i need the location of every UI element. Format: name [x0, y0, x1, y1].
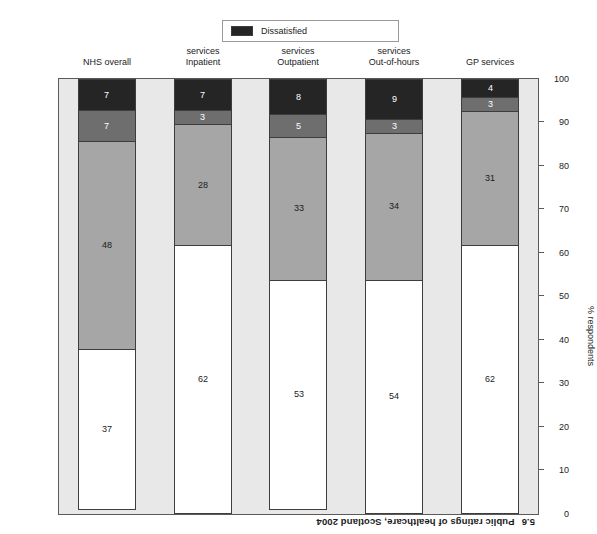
- bar-segment[interactable]: 4: [462, 80, 518, 97]
- y-tick-mark: [539, 470, 544, 471]
- bar-value-label: 48: [102, 241, 112, 250]
- legend-label: Dissatisfied: [261, 26, 307, 36]
- figure-caption: 5.6Public ratings of healthcare, Scotlan…: [235, 517, 535, 528]
- y-axis-title: % respondents: [586, 306, 596, 446]
- bar-value-label: 7: [104, 122, 109, 131]
- y-tick-label: 0: [543, 509, 569, 519]
- bar-group: 374877: [78, 79, 136, 514]
- bar-segment[interactable]: 7: [79, 110, 135, 141]
- bar-group: 533358: [270, 79, 328, 514]
- y-tick-label: 60: [543, 248, 569, 258]
- y-tick-mark: [539, 209, 544, 210]
- bar-value-label: 54: [389, 392, 399, 401]
- x-axis-label: NHS overall: [49, 57, 165, 68]
- y-tick-mark: [539, 252, 544, 253]
- bars-container: 623134543439533358622837374877: [59, 79, 538, 514]
- bar-value-label: 37: [102, 425, 112, 434]
- bar-segment[interactable]: 5: [271, 114, 327, 137]
- y-tick-label: 40: [543, 335, 569, 345]
- y-tick-label: 30: [543, 379, 569, 389]
- bar-segment[interactable]: 3: [175, 110, 231, 124]
- bar-segment[interactable]: 7: [175, 80, 231, 110]
- y-tick-label: 20: [543, 422, 569, 432]
- legend-swatch-dissatisfied: [231, 26, 253, 36]
- y-tick-mark: [539, 122, 544, 123]
- bar-segment[interactable]: 37: [79, 349, 135, 509]
- y-tick-label: 70: [543, 205, 569, 215]
- stacked-bar[interactable]: 533358: [270, 79, 328, 510]
- bar-value-label: 28: [198, 181, 208, 190]
- legend-item: Dissatisfied: [231, 25, 390, 37]
- bar-value-label: 62: [485, 375, 495, 384]
- bar-segment[interactable]: 62: [462, 245, 518, 513]
- bar-segment[interactable]: 31: [462, 111, 518, 245]
- bar-segment[interactable]: 28: [175, 124, 231, 245]
- y-tick-mark: [539, 426, 544, 427]
- figure-root: 5.6Public ratings of healthcare, Scotlan…: [0, 0, 597, 534]
- y-tick-mark: [539, 296, 544, 297]
- bar-group: 623134: [461, 79, 519, 514]
- bar-value-label: 53: [294, 390, 304, 399]
- y-tick-label: 90: [543, 118, 569, 128]
- y-tick-mark: [539, 339, 544, 340]
- bar-segment[interactable]: 8: [271, 80, 327, 114]
- bar-segment[interactable]: 33: [271, 137, 327, 280]
- stacked-bar[interactable]: 622837: [174, 79, 232, 514]
- bar-segment[interactable]: 3: [462, 97, 518, 111]
- bar-group: 622837: [174, 79, 232, 514]
- bar-value-label: 31: [485, 174, 495, 183]
- y-tick-label: 10: [543, 466, 569, 476]
- bar-segment[interactable]: 3: [366, 119, 422, 133]
- bar-value-label: 9: [392, 95, 397, 104]
- bar-value-label: 7: [104, 91, 109, 100]
- y-tick-label: 100: [543, 74, 569, 84]
- bar-value-label: 8: [296, 93, 301, 102]
- bar-value-label: 4: [488, 84, 493, 93]
- bar-segment[interactable]: 34: [366, 133, 422, 280]
- bar-segment[interactable]: 9: [366, 80, 422, 119]
- bar-value-label: 62: [198, 375, 208, 384]
- bar-value-label: 7: [200, 91, 205, 100]
- legend: Dissatisfied: [222, 20, 399, 42]
- bar-segment[interactable]: 54: [366, 280, 422, 513]
- y-tick-label: 50: [543, 292, 569, 302]
- stacked-bar[interactable]: 374877: [78, 79, 136, 510]
- stacked-bar[interactable]: 543439: [365, 79, 423, 514]
- bar-value-label: 3: [392, 122, 397, 131]
- bar-value-label: 34: [389, 202, 399, 211]
- bar-segment[interactable]: 7: [79, 80, 135, 110]
- bar-segment[interactable]: 48: [79, 141, 135, 348]
- bar-segment[interactable]: 62: [175, 245, 231, 513]
- bar-group: 543439: [365, 79, 423, 514]
- caption-number: 5.6: [521, 517, 535, 528]
- bar-value-label: 3: [488, 100, 493, 109]
- y-tick-label: 80: [543, 161, 569, 171]
- caption-text: Public ratings of healthcare, Scotland 2…: [316, 517, 514, 528]
- y-tick-mark: [539, 165, 544, 166]
- stacked-bar[interactable]: 623134: [461, 79, 519, 514]
- bar-value-label: 3: [200, 113, 205, 122]
- y-tick-mark: [539, 383, 544, 384]
- bar-value-label: 33: [294, 204, 304, 213]
- bar-value-label: 5: [296, 122, 301, 131]
- bar-segment[interactable]: 53: [271, 280, 327, 509]
